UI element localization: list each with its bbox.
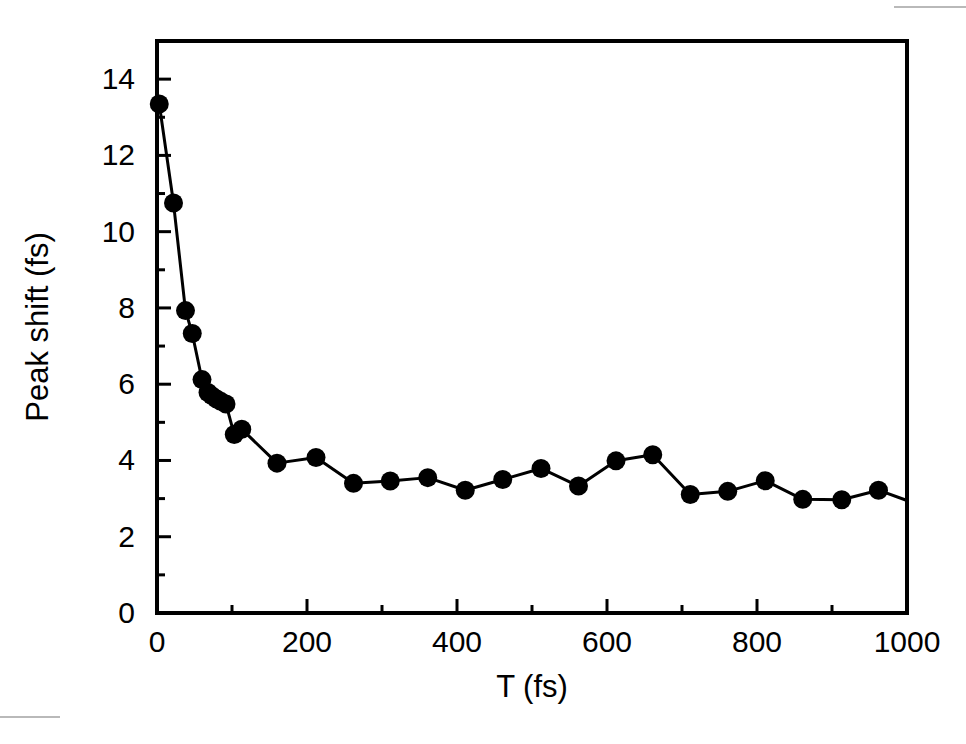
- x-tick-label-800: 800: [732, 625, 782, 658]
- data-point: [681, 485, 700, 504]
- page-edge-rule-bottom: [0, 716, 60, 718]
- y-tick-label-0: 0: [118, 596, 135, 629]
- data-point: [176, 301, 195, 320]
- x-tick-label-200: 200: [282, 625, 332, 658]
- data-point: [493, 470, 512, 489]
- page-edge-rule-top: [894, 6, 966, 8]
- data-point: [532, 459, 551, 478]
- data-point: [217, 395, 236, 414]
- data-point: [869, 481, 888, 500]
- data-point: [456, 481, 475, 500]
- data-point: [718, 482, 737, 501]
- x-tick-label-1000: 1000: [874, 625, 941, 658]
- data-point: [756, 471, 775, 490]
- data-point: [832, 490, 851, 509]
- data-point: [418, 468, 437, 487]
- data-point: [183, 324, 202, 343]
- y-tick-label-10: 10: [102, 215, 135, 248]
- data-point: [150, 94, 169, 113]
- y-tick-label-12: 12: [102, 138, 135, 171]
- data-point: [569, 477, 588, 496]
- data-point: [164, 194, 183, 213]
- y-tick-label-6: 6: [118, 367, 135, 400]
- data-point: [307, 448, 326, 467]
- y-axis-title: Peak shift (fs): [20, 232, 55, 422]
- x-axis-tick-labels: 02004006008001000: [149, 625, 941, 658]
- peak-shift-line-chart: 02004006008001000 02468101214 T (fs) Pea…: [0, 0, 966, 744]
- x-axis-title: T (fs): [496, 669, 568, 704]
- x-tick-label-0: 0: [149, 625, 166, 658]
- data-point: [793, 490, 812, 509]
- y-axis-tick-labels: 02468101214: [102, 62, 135, 629]
- data-point: [268, 454, 287, 473]
- x-tick-label-600: 600: [582, 625, 632, 658]
- axes-border: [157, 41, 907, 613]
- data-point: [232, 420, 251, 439]
- y-tick-label-4: 4: [118, 443, 135, 476]
- data-point: [607, 451, 626, 470]
- data-point: [381, 472, 400, 491]
- plot-frame: [157, 41, 907, 613]
- data-point: [344, 474, 363, 493]
- data-point: [643, 445, 662, 464]
- y-tick-label-2: 2: [118, 520, 135, 553]
- y-tick-label-8: 8: [118, 291, 135, 324]
- y-tick-label-14: 14: [102, 62, 135, 95]
- x-tick-label-400: 400: [432, 625, 482, 658]
- figure-container: 02004006008001000 02468101214 T (fs) Pea…: [0, 0, 966, 744]
